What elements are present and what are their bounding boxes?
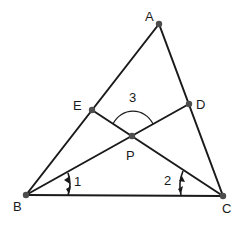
point-e <box>89 107 95 113</box>
label-c: C <box>222 201 231 216</box>
label-b: B <box>13 199 22 214</box>
angle-2-label: 2 <box>164 173 171 188</box>
label-p: P <box>126 148 135 163</box>
label-d: D <box>196 97 205 112</box>
label-a: A <box>145 9 154 24</box>
point-c <box>220 193 226 199</box>
label-e: E <box>73 98 82 113</box>
point-b <box>23 192 29 198</box>
point-a <box>156 21 162 27</box>
triangle-diagram: A B C D E P 1 2 3 <box>0 0 247 225</box>
segment-ac <box>159 24 223 196</box>
segment-ce <box>92 110 223 196</box>
angle-1-marker <box>64 173 71 195</box>
angle-3-arc <box>113 111 153 124</box>
angle-1-label: 1 <box>74 174 81 189</box>
angle-2-marker <box>178 171 185 195</box>
angle-3-label: 3 <box>129 90 136 105</box>
point-d <box>186 101 192 107</box>
segment-bc <box>26 195 223 196</box>
point-p <box>129 133 135 139</box>
